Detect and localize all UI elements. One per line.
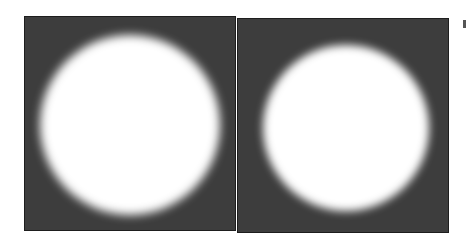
disk-right xyxy=(263,45,429,211)
panel-left xyxy=(24,16,236,231)
disk-left xyxy=(40,35,220,215)
panel-right xyxy=(237,18,449,233)
edge-mark xyxy=(463,20,466,28)
